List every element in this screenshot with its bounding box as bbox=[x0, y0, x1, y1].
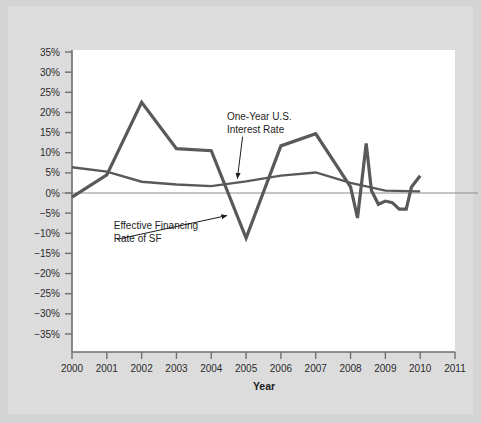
figure-container: 35%30%25%20%15%10%5%0%−5%−10%−15%−20%−25… bbox=[0, 0, 481, 423]
y-tick-label: −5% bbox=[40, 208, 60, 219]
x-tick-label: 2006 bbox=[270, 363, 293, 374]
y-tick-label: −15% bbox=[34, 248, 60, 259]
x-tick-label: 2009 bbox=[374, 363, 397, 374]
y-tick-label: 20% bbox=[40, 107, 60, 118]
y-tick-label: 25% bbox=[40, 87, 60, 98]
y-tick-label: 0% bbox=[46, 188, 61, 199]
x-tick-label: 2001 bbox=[96, 363, 119, 374]
annotation-line: Interest Rate bbox=[227, 124, 285, 135]
annotation-line: Effective Financing bbox=[114, 220, 198, 231]
plot-area-background bbox=[72, 50, 455, 352]
y-axis-ticks bbox=[65, 52, 72, 334]
y-tick-label: −30% bbox=[34, 308, 60, 319]
y-tick-label: −25% bbox=[34, 288, 60, 299]
y-tick-label: −10% bbox=[34, 228, 60, 239]
x-tick-label: 2004 bbox=[200, 363, 223, 374]
x-axis-tick-labels: 2000200120022003200420052006200720082009… bbox=[61, 363, 466, 374]
x-tick-label: 2000 bbox=[61, 363, 84, 374]
y-tick-label: −20% bbox=[34, 268, 60, 279]
x-tick-label: 2007 bbox=[305, 363, 328, 374]
annotation-line: One-Year U.S. bbox=[227, 111, 292, 122]
x-tick-label: 2010 bbox=[409, 363, 432, 374]
y-tick-label: 10% bbox=[40, 147, 60, 158]
y-tick-label: 35% bbox=[40, 47, 60, 58]
x-axis-ticks bbox=[72, 352, 455, 359]
y-tick-label: 5% bbox=[46, 167, 61, 178]
x-tick-label: 2008 bbox=[339, 363, 362, 374]
line-chart: 35%30%25%20%15%10%5%0%−5%−10%−15%−20%−25… bbox=[0, 0, 481, 423]
x-tick-label: 2005 bbox=[235, 363, 258, 374]
y-axis-tick-labels: 35%30%25%20%15%10%5%0%−5%−10%−15%−20%−25… bbox=[34, 47, 60, 340]
x-tick-label: 2011 bbox=[444, 363, 466, 374]
x-tick-label: 2003 bbox=[165, 363, 188, 374]
y-tick-label: 30% bbox=[40, 67, 60, 78]
annotation-label: One-Year U.S.Interest Rate bbox=[227, 111, 292, 135]
y-tick-label: −35% bbox=[34, 329, 60, 340]
x-axis-title: Year bbox=[253, 380, 275, 392]
x-tick-label: 2002 bbox=[131, 363, 154, 374]
y-tick-label: 15% bbox=[40, 127, 60, 138]
